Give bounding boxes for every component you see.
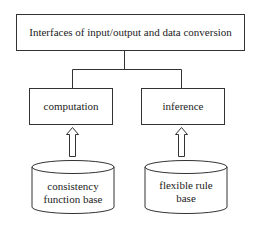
rule-db-line1: flexible rule xyxy=(145,179,227,192)
interfaces-label: Interfaces of input/output and data conv… xyxy=(16,26,245,39)
consistency-db-line2: function base xyxy=(32,193,114,206)
arrow-up-icon xyxy=(176,128,188,157)
rule-db-line2: base xyxy=(145,192,227,205)
consistency-db-label: consistency function base xyxy=(32,180,114,206)
arrow-up-icon xyxy=(67,128,79,157)
consistency-db-line1: consistency xyxy=(32,180,114,193)
rule-db-label: flexible rule base xyxy=(145,179,227,205)
computation-label: computation xyxy=(29,100,113,113)
inference-label: inference xyxy=(141,100,225,113)
